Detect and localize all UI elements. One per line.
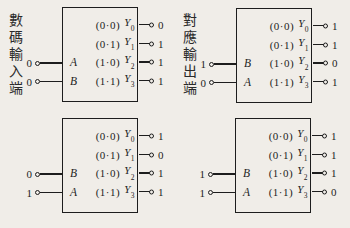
code-pair: (1·0): [270, 54, 295, 72]
input-wire-group: 0: [27, 165, 63, 183]
input-wire-group: 1: [27, 184, 63, 202]
input-wire: [213, 173, 235, 175]
input-port-label: B: [70, 164, 77, 182]
code-pair: (1·0): [269, 164, 294, 182]
input-value: 1: [27, 184, 33, 202]
input-wire-group: 0: [27, 54, 63, 72]
input-port-label: A: [70, 183, 77, 201]
output-terminal-circle: [149, 78, 154, 83]
code-pair: (1·0): [96, 164, 121, 182]
output-wire: [313, 81, 324, 83]
output-value: 1: [158, 127, 164, 145]
output-wire: [312, 154, 323, 156]
input-port-label: B: [244, 54, 251, 72]
input-value: 0: [27, 54, 33, 72]
output-terminal-circle: [149, 171, 154, 176]
output-wire: [139, 80, 150, 82]
code-pair: (1·1): [269, 183, 294, 201]
input-port-label: A: [243, 183, 250, 201]
decoder-module-bottom-right: (0·0) Y0 1 (0·1) Y1 1 (1·0) Y2 1 (1·1) Y…: [235, 118, 311, 213]
output-wire: [313, 44, 324, 46]
decoder-module-top-left: (0·0) Y0 0 (0·1) Y1 1 (1·0) Y2 1 (1·1) Y…: [62, 7, 138, 102]
output-name: Y3: [124, 180, 134, 203]
output-terminal-circle: [149, 189, 154, 194]
output-terminal-circle: [322, 152, 327, 157]
code-pair: (0·0): [270, 17, 295, 35]
output-value: 1: [158, 183, 164, 201]
output-terminal-circle: [323, 42, 328, 47]
output-value: 1: [332, 17, 338, 35]
input-port-label: A: [244, 73, 251, 91]
corresponding-output-terminal-label: 對應輸出端: [178, 13, 198, 98]
input-value: 0: [27, 165, 33, 183]
output-wire: [139, 154, 150, 156]
input-wire-group: 1: [200, 184, 236, 202]
decoder-box: (0·0) Y0 1 (0·1) Y1 1 (1·0) Y2 0 (1·1) Y…: [236, 8, 312, 103]
code-pair: (1·0): [96, 53, 121, 71]
output-wire: [139, 61, 150, 63]
code-pair: (1·1): [96, 183, 121, 201]
input-wire-group: 0: [27, 73, 63, 91]
output-terminal-circle: [322, 189, 327, 194]
output-wire: [312, 172, 323, 174]
input-wire: [40, 192, 62, 194]
output-terminal-circle: [149, 60, 154, 65]
output-terminal-circle: [323, 61, 328, 66]
output-value: 1: [332, 36, 338, 54]
output-wire: [313, 25, 324, 27]
input-wire: [40, 62, 62, 64]
output-terminal-circle: [322, 133, 327, 138]
decoder-box: (0·0) Y0 1 (0·1) Y1 1 (1·0) Y2 1 (1·1) Y…: [235, 118, 311, 213]
decoder-row: (0·0) Y0 1: [236, 127, 310, 145]
output-terminal-circle: [149, 22, 154, 27]
output-value: 0: [331, 183, 337, 201]
output-wire: [139, 172, 150, 174]
input-wire: [40, 81, 62, 83]
output-terminal-circle: [323, 79, 328, 84]
digital-input-terminal-label: 數碼輸入端: [4, 13, 24, 98]
output-value: 1: [331, 127, 337, 145]
input-value: 1: [200, 165, 206, 183]
output-wire: [139, 135, 150, 137]
decoder-module-top-right: (0·0) Y0 1 (0·1) Y1 1 (1·0) Y2 0 (1·1) Y…: [236, 8, 312, 103]
decoder-row: (0·0) Y0 1: [63, 127, 137, 145]
output-wire: [139, 43, 150, 45]
output-name: Y3: [124, 69, 134, 92]
code-pair: (0·0): [96, 127, 121, 145]
input-value: 1: [201, 55, 207, 73]
output-wire: [139, 191, 150, 193]
input-wire-group: 0: [201, 74, 237, 92]
input-value: 1: [200, 184, 206, 202]
diagram-canvas: { "colors": { "background": "#f0ede8", "…: [0, 0, 350, 228]
output-terminal-circle: [323, 23, 328, 28]
output-wire: [312, 135, 323, 137]
input-wire-group: 1: [200, 165, 236, 183]
input-port-label: B: [243, 164, 250, 182]
output-terminal-circle: [149, 41, 154, 46]
output-name: Y3: [297, 180, 307, 203]
code-pair: (0·1): [96, 146, 121, 164]
output-value: 1: [331, 146, 337, 164]
code-pair: (0·1): [269, 146, 294, 164]
code-pair: (1·1): [270, 73, 295, 91]
output-wire: [312, 191, 323, 193]
code-pair: (1·1): [96, 72, 121, 90]
output-value: 1: [158, 53, 164, 71]
input-value: 0: [201, 74, 207, 92]
output-value: 1: [332, 73, 338, 91]
output-value: 0: [158, 16, 164, 34]
decoder-box: (0·0) Y0 1 (0·1) Y1 0 (1·0) Y2 1 (1·1) Y…: [62, 118, 138, 213]
decoder-module-bottom-left: (0·0) Y0 1 (0·1) Y1 0 (1·0) Y2 1 (1·1) Y…: [62, 118, 138, 213]
code-pair: (0·0): [96, 16, 121, 34]
input-wire-group: 1: [201, 55, 237, 73]
input-wire: [214, 82, 236, 84]
code-pair: (0·0): [269, 127, 294, 145]
output-value: 1: [158, 72, 164, 90]
decoder-row: (0·0) Y0 1: [237, 17, 311, 35]
decoder-row: (0·0) Y0 0: [63, 16, 137, 34]
output-value: 1: [331, 164, 337, 182]
output-value: 1: [158, 35, 164, 53]
output-value: 1: [158, 164, 164, 182]
input-wire: [213, 192, 235, 194]
output-value: 0: [158, 146, 164, 164]
